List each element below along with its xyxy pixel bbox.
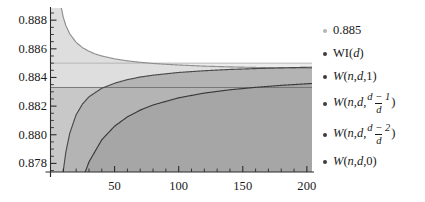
legend-item-label: W(n,d,d − 2d) (333, 123, 395, 146)
legend-item-w-n-d-0[interactable]: W(n,d,0) (322, 153, 425, 170)
plot-area: 0.8780.8800.8820.8840.8860.888 501001502… (0, 0, 318, 196)
legend-bullet-icon (323, 102, 327, 106)
x-tick-label: 150 (233, 180, 252, 193)
legend-bullet-icon (323, 133, 327, 137)
legend-bullet-icon (323, 29, 327, 33)
legend-item-label: W(n,d,1) (333, 70, 377, 83)
legend-fraction: d − 2d (366, 122, 391, 145)
x-tick-label: 50 (108, 180, 121, 193)
legend-item-label: WI(d) (333, 47, 364, 60)
legend-fraction: d − 1d (366, 91, 391, 114)
legend-item-w-n-d-1[interactable]: W(n,d,1) (322, 68, 425, 85)
legend: 0.885WI(d)W(n,d,1)W(n,d,d − 1d)W(n,d,d −… (322, 22, 425, 176)
legend-item-label: W(n,d,d − 1d) (333, 92, 395, 115)
x-tick-label: 200 (297, 180, 316, 193)
x-tick-label: 100 (169, 180, 188, 193)
legend-item-label: W(n,d,0) (333, 155, 377, 168)
legend-bullet-icon (323, 160, 327, 164)
legend-item-wi-d[interactable]: WI(d) (322, 45, 425, 62)
legend-item-label: 0.885 (333, 24, 361, 37)
legend-bullet-icon (323, 52, 327, 56)
x-axis-tick-labels: 50100150200 (0, 0, 318, 196)
legend-item-const-885[interactable]: 0.885 (322, 22, 425, 39)
legend-item-w-n-d-dm1-over-d[interactable]: W(n,d,d − 1d) (322, 91, 425, 117)
legend-item-w-n-d-dm2-over-d[interactable]: W(n,d,d − 2d) (322, 122, 425, 148)
chart-figure: 0.8780.8800.8820.8840.8860.888 501001502… (0, 0, 425, 202)
legend-bullet-icon (323, 75, 327, 79)
